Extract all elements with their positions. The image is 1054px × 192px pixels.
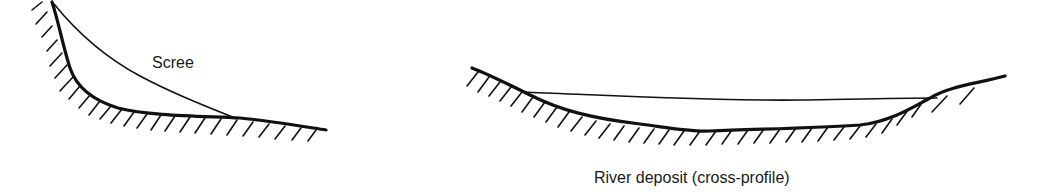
scree-label: Scree	[152, 54, 194, 71]
river-panel: River deposit (cross-profile)	[467, 68, 1005, 186]
scree-panel: Scree	[32, 2, 326, 141]
river-label: River deposit (cross-profile)	[594, 169, 790, 186]
scree-ground-hatching	[32, 2, 316, 141]
river-deposit-surface	[523, 92, 937, 100]
scree-deposit-surface	[54, 4, 235, 118]
river-ground-hatching	[467, 72, 974, 145]
diagram-canvas: Scree	[0, 0, 1054, 192]
